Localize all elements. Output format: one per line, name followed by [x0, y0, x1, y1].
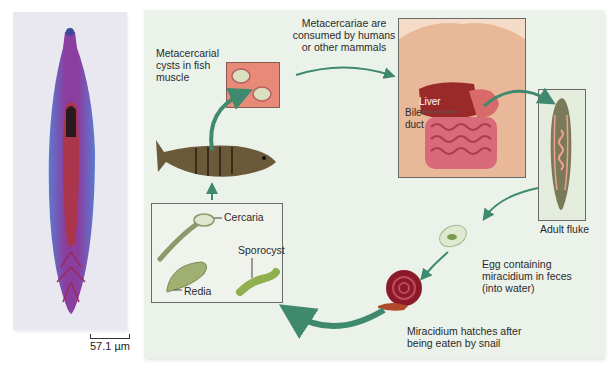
adult-to-egg-arrow	[486, 188, 538, 216]
snail-to-larvae-arrow	[294, 310, 384, 326]
liver-to-adult-arrow	[484, 91, 548, 106]
stained-fluke-image	[13, 12, 127, 330]
fish-to-cyst-arrow	[211, 94, 242, 150]
scale-bar-line	[90, 334, 130, 339]
cycle-arrows	[144, 10, 604, 358]
egg-to-snail-arrow	[424, 252, 448, 276]
fluke-micrograph	[13, 12, 127, 330]
scale-bar-label: 57.1 µm	[90, 340, 130, 352]
consumption-arrow	[296, 68, 390, 76]
life-cycle-panel: Metacercarial cysts in fish muscle Metac…	[144, 10, 604, 358]
scale-bar: 57.1 µm	[90, 334, 130, 352]
